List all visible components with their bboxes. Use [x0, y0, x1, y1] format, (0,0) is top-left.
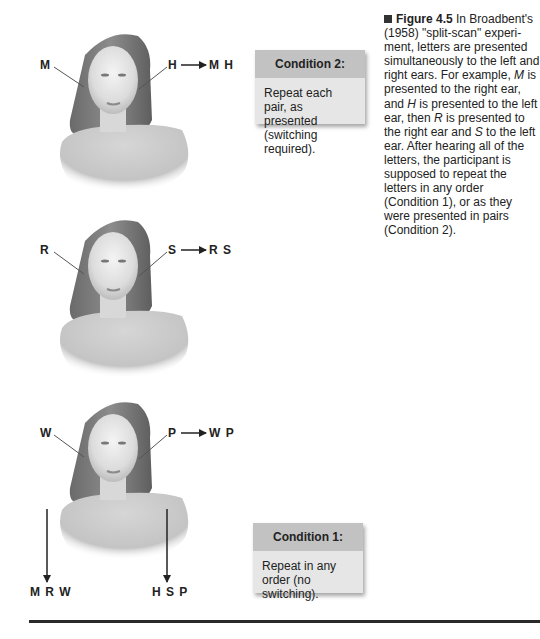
caption-letter: M [514, 68, 524, 82]
figure-number: Figure 4.5 [396, 12, 453, 26]
condition-2-title: Condition 2: [255, 50, 365, 78]
bottom-rule-divider [29, 620, 540, 623]
condition-2-box: Condition 2: Repeat each pair, as presen… [255, 50, 365, 124]
caption-square-icon [384, 15, 392, 23]
caption-letter: S [475, 125, 483, 139]
head-illustration-3 [54, 402, 206, 560]
right-ear-letter-2: R [40, 243, 50, 257]
condition-2-text: Repeat each pair, as presented (switchin… [255, 78, 365, 166]
pair-output-1: M H [209, 58, 234, 72]
condition-1-box: Condition 1: Repeat in any order (no swi… [253, 523, 363, 593]
left-ear-letter-1: H [168, 58, 178, 72]
condition-1-title: Condition 1: [253, 523, 363, 551]
right-ear-sequence: M R W [30, 585, 72, 599]
head-illustration-2 [54, 220, 206, 378]
left-ear-sequence: H S P [152, 585, 188, 599]
caption-letter: R [434, 111, 443, 125]
caption-letter: H [407, 97, 416, 111]
figure-caption: Figure 4.5 In Broadbent's (1958) "split-… [384, 12, 540, 238]
right-ear-letter-1: M [40, 58, 51, 72]
caption-text-part: to the left ear. After hearing all of th… [384, 125, 535, 238]
head-illustration-1 [54, 34, 206, 192]
pair-output-3: W P [209, 426, 235, 440]
right-ear-letter-3: W [40, 426, 52, 440]
left-ear-letter-3: P [168, 426, 177, 440]
left-ear-letter-2: S [168, 243, 177, 257]
condition-1-text: Repeat in any order (no switching). [253, 551, 363, 611]
pair-output-2: R S [209, 243, 232, 257]
